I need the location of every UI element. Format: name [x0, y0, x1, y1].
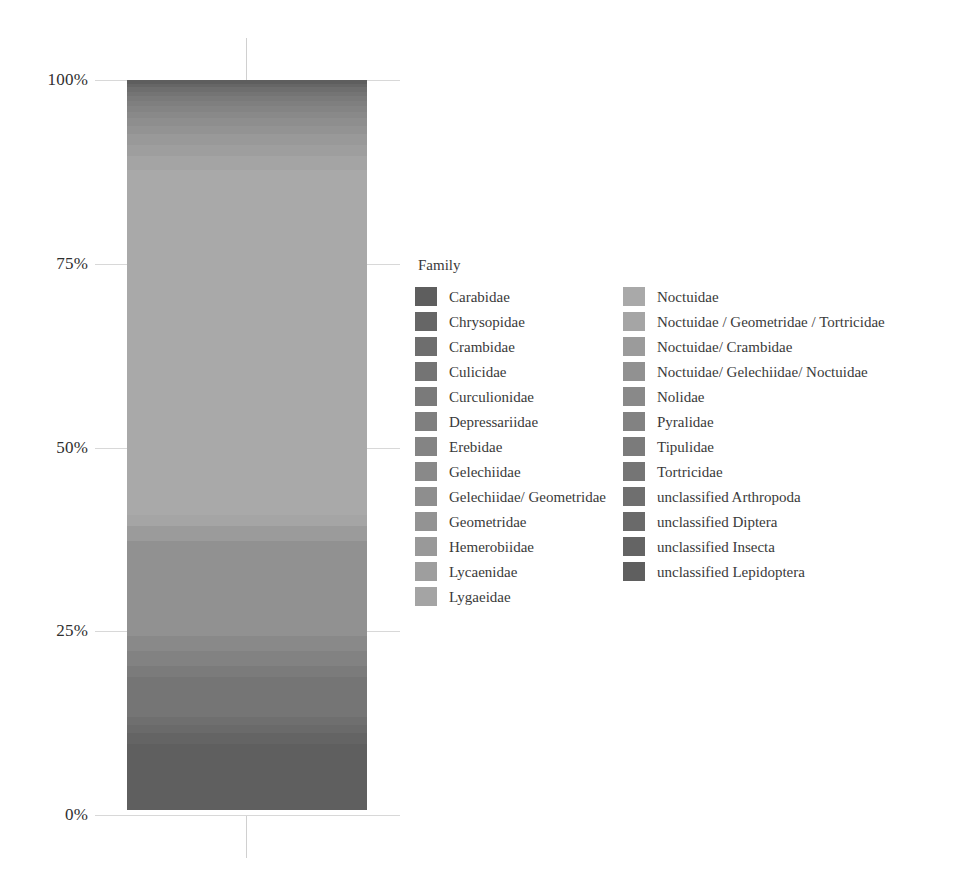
legend-item[interactable]: Depressariidae [415, 409, 606, 434]
y-tick-label: 50% [26, 439, 88, 456]
legend-swatch-icon [623, 287, 645, 306]
legend-item[interactable]: Curculionidae [415, 384, 606, 409]
legend-swatch-icon [623, 462, 645, 481]
y-tick-label: 75% [26, 255, 88, 272]
legend-swatch-icon [415, 387, 437, 406]
legend-swatch-icon [623, 312, 645, 331]
legend-item-label: Culicidae [449, 364, 506, 380]
legend: Family CarabidaeChrysopidaeCrambidaeCuli… [415, 258, 945, 284]
legend-column-2: NoctuidaeNoctuidae / Geometridae / Tortr… [623, 284, 885, 584]
legend-swatch-icon [623, 337, 645, 356]
legend-item[interactable]: Tortricidae [623, 459, 885, 484]
legend-item[interactable]: Nolidae [623, 384, 885, 409]
y-tick: 75% [0, 255, 88, 272]
legend-swatch-icon [415, 587, 437, 606]
legend-item-label: unclassified Insecta [657, 539, 775, 555]
bar-segment [127, 515, 367, 526]
bar-segment [127, 651, 367, 666]
legend-swatch-icon [415, 287, 437, 306]
legend-item[interactable]: Gelechiidae/ Geometridae [415, 484, 606, 509]
legend-item-label: Crambidae [449, 339, 515, 355]
legend-item-label: Nolidae [657, 389, 704, 405]
legend-item[interactable]: Noctuidae/ Crambidae [623, 334, 885, 359]
legend-swatch-icon [415, 512, 437, 531]
legend-swatch-icon [415, 537, 437, 556]
legend-item[interactable]: unclassified Insecta [623, 534, 885, 559]
legend-item[interactable]: unclassified Arthropoda [623, 484, 885, 509]
legend-swatch-icon [623, 512, 645, 531]
legend-item[interactable]: Tipulidae [623, 434, 885, 459]
legend-item[interactable]: unclassified Diptera [623, 509, 885, 534]
legend-item[interactable]: Culicidae [415, 359, 606, 384]
legend-item-label: Noctuidae / Geometridae / Tortricidae [657, 314, 885, 330]
legend-item[interactable]: Noctuidae [623, 284, 885, 309]
legend-item-label: Pyralidae [657, 414, 714, 430]
legend-item[interactable]: Lygaeidae [415, 584, 606, 609]
legend-item[interactable]: Noctuidae / Geometridae / Tortricidae [623, 309, 885, 334]
y-tick: 0% [0, 806, 88, 823]
legend-item-label: Tipulidae [657, 439, 714, 455]
y-tick: 50% [0, 439, 88, 456]
chart-plot-area: 100%75%50%25%0% [0, 0, 410, 878]
legend-item-label: Lycaenidae [449, 564, 517, 580]
legend-swatch-icon [415, 412, 437, 431]
bar-segment [127, 636, 367, 651]
legend-item-label: Lygaeidae [449, 589, 511, 605]
bar-segment [127, 733, 367, 743]
legend-swatch-icon [623, 537, 645, 556]
legend-item[interactable]: Noctuidae/ Gelechiidae/ Noctuidae [623, 359, 885, 384]
legend-item-label: unclassified Lepidoptera [657, 564, 805, 580]
legend-title: Family [415, 258, 945, 273]
legend-item-label: Noctuidae [657, 289, 719, 305]
y-tick-label: 100% [26, 71, 88, 88]
bar-segment [127, 156, 367, 169]
y-tick-label: 25% [26, 622, 88, 639]
legend-item-label: Curculionidae [449, 389, 534, 405]
legend-item[interactable]: Erebidae [415, 434, 606, 459]
legend-swatch-icon [415, 337, 437, 356]
bar-segment [127, 118, 367, 125]
bar-segment [127, 126, 367, 135]
bar-segment [127, 666, 367, 677]
vertical-gridline-top [246, 38, 247, 80]
bar-segment [127, 170, 367, 515]
legend-swatch-icon [415, 562, 437, 581]
legend-item-label: Noctuidae/ Crambidae [657, 339, 792, 355]
legend-item-label: unclassified Arthropoda [657, 489, 801, 505]
legend-swatch-icon [415, 462, 437, 481]
legend-item[interactable]: Hemerobiidae [415, 534, 606, 559]
legend-item[interactable]: Gelechiidae [415, 459, 606, 484]
y-tick-label: 0% [26, 806, 88, 823]
legend-item[interactable]: Crambidae [415, 334, 606, 359]
bar-segment [127, 134, 367, 144]
legend-item[interactable]: Chrysopidae [415, 309, 606, 334]
legend-item-label: Geometridae [449, 514, 526, 530]
legend-item-label: Gelechiidae [449, 464, 521, 480]
vertical-gridline-bottom [246, 815, 247, 858]
legend-swatch-icon [623, 437, 645, 456]
bar-segment [127, 541, 367, 637]
legend-item-label: Chrysopidae [449, 314, 525, 330]
legend-item-label: Erebidae [449, 439, 502, 455]
legend-item[interactable]: Carabidae [415, 284, 606, 309]
stacked-bar [127, 80, 367, 815]
legend-swatch-icon [415, 437, 437, 456]
legend-item-label: unclassified Diptera [657, 514, 777, 530]
bar-segment [127, 526, 367, 541]
y-tick: 100% [0, 71, 88, 88]
bar-segment [127, 725, 367, 734]
legend-swatch-icon [623, 362, 645, 381]
legend-item-label: Gelechiidae/ Geometridae [449, 489, 606, 505]
legend-column-1: CarabidaeChrysopidaeCrambidaeCulicidaeCu… [415, 284, 606, 609]
legend-swatch-icon [623, 562, 645, 581]
bar-segment [127, 717, 367, 724]
legend-swatch-icon [623, 487, 645, 506]
legend-swatch-icon [623, 387, 645, 406]
legend-item[interactable]: Pyralidae [623, 409, 885, 434]
legend-swatch-icon [415, 312, 437, 331]
legend-item[interactable]: Lycaenidae [415, 559, 606, 584]
gridline [95, 815, 400, 816]
legend-item[interactable]: Geometridae [415, 509, 606, 534]
legend-item[interactable]: unclassified Lepidoptera [623, 559, 885, 584]
legend-item-label: Noctuidae/ Gelechiidae/ Noctuidae [657, 364, 868, 380]
